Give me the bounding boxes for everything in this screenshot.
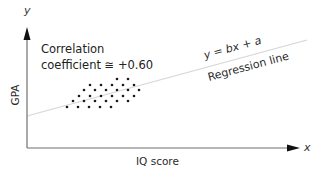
y-variable-label: y <box>24 4 31 17</box>
x-axis-arrow-icon <box>287 145 300 152</box>
correlation-line-2: coefficient ≅ +0.60 <box>41 57 153 73</box>
y-axis-arrow-icon <box>24 27 31 40</box>
correlation-annotation: Correlation coefficient ≅ +0.60 <box>41 41 153 73</box>
x-variable-label: x <box>304 141 311 154</box>
x-axis-title: IQ score <box>136 155 179 167</box>
correlation-line-1: Correlation <box>41 41 153 57</box>
diagram-canvas <box>0 0 317 175</box>
scatter-points <box>66 78 141 109</box>
scatter-diagram: y x Correlation coefficient ≅ +0.60 GPA … <box>0 0 317 175</box>
y-axis-title: GPA <box>9 82 21 108</box>
